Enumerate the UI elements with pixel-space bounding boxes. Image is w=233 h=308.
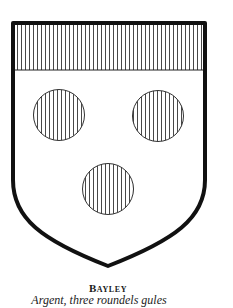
roundel-sinister — [133, 91, 184, 142]
coat-of-arms-shield — [0, 0, 233, 280]
chief — [13, 23, 205, 70]
blazon-caption: Argent, three roundels gules — [0, 294, 198, 307]
roundel-base — [83, 164, 134, 215]
roundel-dexter — [34, 90, 85, 141]
